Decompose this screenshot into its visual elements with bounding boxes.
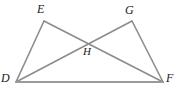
geometry-figure: E G D F H <box>0 0 180 94</box>
vertex-label-E: E <box>37 3 44 15</box>
segment-GF <box>132 21 163 82</box>
vertex-label-G: G <box>125 4 134 16</box>
segment-DE <box>16 21 44 82</box>
vertex-label-H: H <box>83 45 91 57</box>
vertex-label-F: F <box>166 72 173 84</box>
segment-EF <box>44 21 163 82</box>
vertex-label-D: D <box>1 72 10 84</box>
segment-DG <box>16 21 132 82</box>
